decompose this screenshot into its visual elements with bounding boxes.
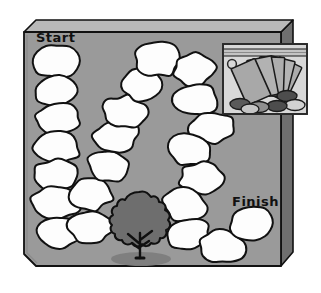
track-space[interactable] (32, 44, 81, 79)
start-label: Start (36, 30, 75, 45)
token (285, 100, 305, 111)
ziplock-bag-of-cards[interactable] (223, 44, 307, 114)
token (241, 104, 259, 114)
board-game-illustration: Start Finish (0, 0, 321, 293)
token (267, 101, 287, 112)
finish-label: Finish (232, 194, 279, 209)
